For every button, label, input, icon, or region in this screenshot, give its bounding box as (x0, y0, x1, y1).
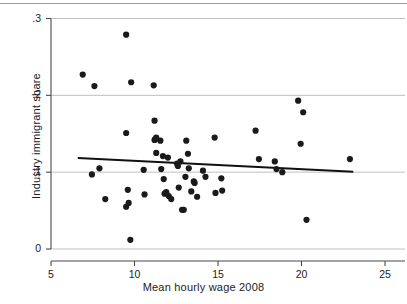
scatter-point (128, 79, 134, 85)
scatter-point (123, 32, 129, 38)
x-tick-label-1: 10 (120, 268, 150, 280)
scatter-point (256, 156, 262, 162)
scatter-point (219, 188, 225, 194)
regression-fit-line (78, 158, 354, 172)
x-tick-label-3: 20 (287, 268, 317, 280)
scatter-point (181, 207, 187, 213)
y-tick-label-3: .3 (19, 12, 41, 24)
axes-group (46, 19, 405, 267)
scatter-point (252, 128, 258, 134)
scatter-point (272, 158, 278, 164)
scatter-point (186, 165, 192, 171)
scatter-point (158, 166, 164, 172)
scatter-point (157, 138, 163, 144)
scatter-point (177, 158, 183, 164)
data-points-group (80, 32, 353, 243)
scatter-point (200, 168, 206, 174)
scatter-point (102, 196, 108, 202)
plot-canvas (0, 0, 407, 304)
scatter-point (91, 83, 97, 89)
scatter-point (165, 154, 171, 160)
scatter-point (347, 156, 353, 162)
scatter-point (298, 141, 304, 147)
scatter-point (151, 118, 157, 124)
scatter-point (279, 169, 285, 175)
y-axis-title: Industry immigrant share (30, 26, 42, 246)
scatter-plot-figure: 0.1.2.3 510152025 Mean hourly wage 2008 … (0, 0, 407, 304)
scatter-point (125, 187, 131, 193)
scatter-point (151, 82, 157, 88)
scatter-point (183, 138, 189, 144)
scatter-point (176, 184, 182, 190)
scatter-point (300, 109, 306, 115)
scatter-point (273, 166, 279, 172)
scatter-point (218, 175, 224, 181)
gridlines-group (51, 19, 405, 250)
scatter-point (127, 237, 133, 243)
x-tick-label-0: 5 (36, 268, 66, 280)
x-tick-label-2: 15 (203, 268, 233, 280)
scatter-point (212, 190, 218, 196)
scatter-point (96, 165, 102, 171)
scatter-point (161, 176, 167, 182)
scatter-point (303, 217, 309, 223)
scatter-point (182, 174, 188, 180)
scatter-point (168, 196, 174, 202)
scatter-point (295, 98, 301, 104)
scatter-point (194, 194, 200, 200)
scatter-point (153, 150, 159, 156)
scatter-point (202, 174, 208, 180)
scatter-point (185, 151, 191, 157)
scatter-point (212, 134, 218, 140)
scatter-point (126, 200, 132, 206)
scatter-point (89, 171, 95, 177)
scatter-point (188, 188, 194, 194)
scatter-point (123, 130, 129, 136)
scatter-point (141, 191, 147, 197)
scatter-point (141, 167, 147, 173)
x-tick-label-4: 25 (370, 268, 400, 280)
scatter-point (80, 71, 86, 77)
fit-line-group (78, 158, 354, 172)
x-axis-title: Mean hourly wage 2008 (0, 281, 407, 293)
scatter-point (192, 180, 198, 186)
